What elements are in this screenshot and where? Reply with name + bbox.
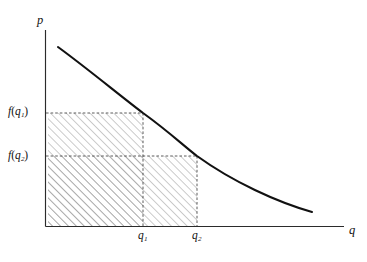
axis-label-p: p [37,14,43,27]
revenue-rect-q1 [48,113,143,226]
axis-label-q: q [349,224,355,237]
demand-curve-figure [0,0,367,262]
x-tick-label-q1: q1 [138,230,147,242]
y-tick-label-fq2: f(q2) [8,150,28,162]
y-tick-label-fq1: f(q1) [8,106,28,118]
x-tick-label-q2: q2 [192,230,201,242]
